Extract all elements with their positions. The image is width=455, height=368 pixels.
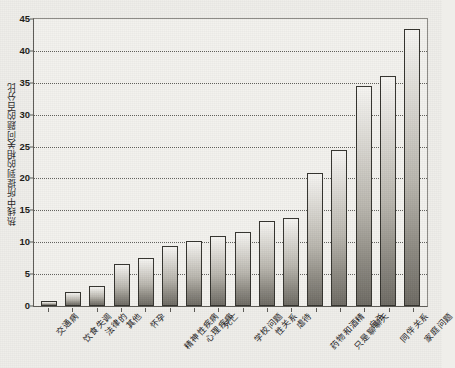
x-tick-slot: 同伴关系: [376, 308, 400, 368]
x-axis-tick-labels: 交通病饮食失调法律的其他怀孕精神性疾病心理疾病死亡学校问题性关系虐待药物和酒精只…: [33, 308, 428, 368]
y-axis-tick-label: 25: [19, 142, 30, 152]
x-axis-tick-mark: [121, 308, 122, 312]
bar-slot: [351, 19, 375, 306]
bar[interactable]: [138, 258, 154, 306]
y-axis-tick-label: 15: [19, 206, 30, 216]
y-axis-title-text: 热线中所提到的相关问题的百分比: [7, 82, 16, 226]
y-axis-title: 热线中所提到的相关问题的百分比: [2, 0, 20, 307]
plot-area: 051015202530354045: [33, 18, 428, 307]
bar-slot: [134, 19, 158, 306]
x-tick-slot: 怀孕: [133, 308, 157, 368]
y-axis-tick-label: 35: [19, 78, 30, 88]
bar-slot: [231, 19, 255, 306]
y-axis-tick-label: 30: [19, 110, 30, 120]
bar-slot: [85, 19, 109, 306]
x-tick-slot: 性关系: [255, 308, 279, 368]
bar-slot: [110, 19, 134, 306]
x-axis-tick-mark: [316, 308, 317, 312]
x-tick-slot: 心理疾病: [182, 308, 206, 368]
x-axis-tick-mark: [145, 308, 146, 312]
y-axis-tick-label: 20: [19, 174, 30, 184]
x-axis-tick-mark: [194, 308, 195, 312]
bar[interactable]: [331, 150, 347, 306]
bar[interactable]: [307, 173, 323, 306]
y-axis-tick-label: 45: [19, 14, 30, 24]
x-tick-slot: 法律的: [85, 308, 109, 368]
y-axis-tick-label: 0: [25, 301, 30, 311]
bar[interactable]: [162, 246, 178, 306]
bar-slot: [303, 19, 327, 306]
bar-slot: [400, 19, 424, 306]
bar-slot: [61, 19, 85, 306]
y-axis-tick-label: 10: [19, 237, 30, 247]
bar[interactable]: [404, 29, 420, 306]
bar[interactable]: [89, 286, 105, 306]
x-axis-tick-mark: [267, 308, 268, 312]
bar-slot: [182, 19, 206, 306]
bar-slot: [279, 19, 303, 306]
y-axis-tick-label: 5: [25, 269, 30, 279]
bar[interactable]: [380, 76, 396, 306]
x-axis-tick-mark: [218, 308, 219, 312]
bar-slot: [37, 19, 61, 306]
bar-series: [34, 19, 427, 306]
x-tick-slot: 虐待: [279, 308, 303, 368]
x-tick-slot: 交通病: [36, 308, 60, 368]
bar[interactable]: [235, 232, 251, 306]
x-axis-tick-mark: [413, 308, 414, 312]
x-axis-tick-mark: [48, 308, 49, 312]
x-axis-tick-mark: [364, 308, 365, 312]
bar[interactable]: [259, 221, 275, 306]
x-axis-tick-mark: [97, 308, 98, 312]
bar-slot: [255, 19, 279, 306]
x-axis-tick-mark: [170, 308, 171, 312]
bar-slot: [206, 19, 230, 306]
bar[interactable]: [210, 236, 226, 306]
x-tick-slot: 只是聊聊天: [328, 308, 352, 368]
x-axis-tick-mark: [291, 308, 292, 312]
x-tick-slot: 精神性疾病: [158, 308, 182, 368]
x-tick-slot: 药物和酒精: [303, 308, 327, 368]
y-axis-tick-label: 40: [19, 46, 30, 56]
bar-slot: [376, 19, 400, 306]
bar[interactable]: [114, 264, 130, 306]
x-axis-tick-mark: [389, 308, 390, 312]
x-axis-tick-mark: [72, 308, 73, 312]
bar[interactable]: [41, 301, 57, 306]
bar-slot: [327, 19, 351, 306]
bar[interactable]: [65, 292, 81, 306]
bar-slot: [158, 19, 182, 306]
bar[interactable]: [186, 241, 202, 306]
x-tick-slot: 学校问题: [231, 308, 255, 368]
x-axis-tick-mark: [340, 308, 341, 312]
x-tick-slot: 其他: [109, 308, 133, 368]
x-tick-slot: 死亡: [206, 308, 230, 368]
x-tick-slot: 家庭问题: [401, 308, 425, 368]
x-axis-tick-mark: [243, 308, 244, 312]
bar[interactable]: [356, 86, 372, 306]
bar[interactable]: [283, 218, 299, 306]
x-tick-slot: 饮食失调: [60, 308, 84, 368]
x-tick-slot: 自杀: [352, 308, 376, 368]
